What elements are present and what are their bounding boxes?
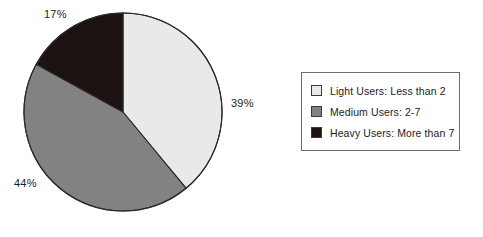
legend-swatch-light-users-icon [311,85,322,96]
pie-label-light-users-percent: 39% [231,97,254,109]
pie-label-heavy-users-percent: 17% [44,8,67,20]
legend-swatch-heavy-users-icon [311,127,322,138]
legend-item-heavy-users[interactable]: Heavy Users: More than 7 [311,122,459,143]
legend-label-heavy-users: Heavy Users: More than 7 [330,127,454,139]
pie-label-medium-users-percent: 44% [14,177,37,189]
legend-label-light-users: Light Users: Less than 2 [330,85,446,97]
legend-item-light-users[interactable]: Light Users: Less than 2 [311,80,459,101]
pie-chart-figure: 17% 39% 44% Light Users: Less than 2 Med… [0,0,483,237]
legend-swatch-medium-users-icon [311,106,322,117]
chart-legend: Light Users: Less than 2 Medium Users: 2… [301,72,460,151]
legend-item-medium-users[interactable]: Medium Users: 2-7 [311,101,459,122]
legend-label-medium-users: Medium Users: 2-7 [330,106,420,118]
